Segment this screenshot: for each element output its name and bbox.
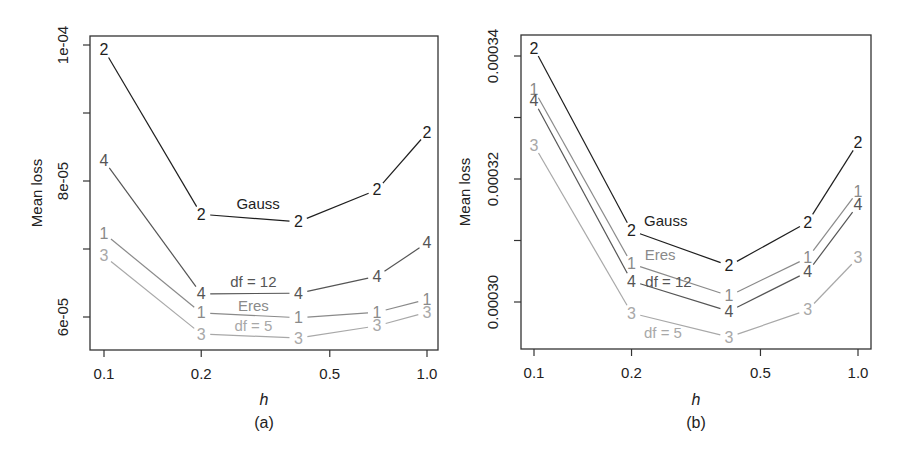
panel-a: 6e-058e-051e-040.10.20.51.0Mean lossh(a)… (28, 26, 438, 431)
data-point-marker: 2 (423, 124, 432, 141)
panel-caption: (a) (254, 414, 274, 431)
series-annotation: Gauss (236, 195, 279, 212)
x-axis-label: h (692, 391, 701, 408)
data-point-marker: 2 (197, 206, 206, 223)
series-df-5: 33333 (530, 137, 863, 346)
data-point-marker: 1 (197, 304, 206, 321)
figure: 6e-058e-051e-040.10.20.51.0Mean lossh(a)… (0, 0, 903, 458)
y-axis-label: Mean loss (28, 159, 45, 227)
y-tick-label: 6e-05 (54, 298, 71, 336)
series-segment (307, 278, 368, 291)
data-point-marker: 2 (725, 257, 734, 274)
series-segment (383, 139, 421, 183)
data-point-marker: 4 (423, 234, 432, 251)
data-point-marker: 3 (725, 329, 734, 346)
series-annotation: df = 12 (645, 273, 691, 290)
data-point-marker: 4 (803, 263, 812, 280)
data-point-marker: 4 (373, 268, 382, 285)
series-segment (384, 248, 419, 271)
y-tick-label: 0.00034 (484, 29, 501, 83)
series-segment (210, 293, 289, 294)
data-point-marker: 4 (627, 273, 636, 290)
data-point-marker: 2 (530, 40, 539, 57)
data-point-marker: 3 (373, 317, 382, 334)
series-segment (538, 109, 627, 273)
series-annotation: df = 12 (230, 273, 276, 290)
y-axis-label: Mean loss (456, 158, 473, 226)
x-tick-label: 0.2 (621, 364, 642, 381)
data-point-marker: 2 (373, 181, 382, 198)
y-tick-label: 0.00032 (484, 152, 501, 206)
series-segment (813, 212, 852, 265)
series-segment (737, 226, 800, 261)
x-tick-label: 1.0 (417, 365, 438, 382)
series-eres: 11111 (530, 81, 863, 304)
series-segment (210, 215, 289, 221)
series-segment (814, 264, 852, 303)
data-point-marker: 2 (803, 214, 812, 231)
x-tick-label: 0.5 (750, 364, 771, 381)
series-annotation: df = 5 (234, 317, 272, 334)
series-annotation: Eres (645, 246, 676, 263)
data-point-marker: 2 (854, 134, 863, 151)
series-segment (813, 198, 852, 250)
x-tick-label: 0.1 (94, 365, 115, 382)
series-segment (386, 302, 419, 310)
data-point-marker: 3 (197, 326, 206, 343)
x-tick-label: 1.0 (848, 364, 869, 381)
x-tick-label: 0.5 (319, 365, 340, 382)
series-segment (210, 334, 289, 337)
data-point-marker: 4 (100, 152, 109, 169)
data-point-marker: 3 (627, 305, 636, 322)
data-point-marker: 3 (100, 247, 109, 264)
data-point-marker: 3 (423, 304, 432, 321)
data-point-marker: 4 (725, 303, 734, 320)
data-point-marker: 3 (530, 137, 539, 154)
series-segment (737, 276, 800, 307)
y-tick-label: 1e-04 (54, 26, 71, 64)
series-segment (307, 313, 368, 317)
data-point-marker: 4 (294, 285, 303, 302)
data-point-marker: 4 (197, 285, 206, 302)
y-tick-label: 8e-05 (54, 162, 71, 200)
series-segment (307, 327, 368, 336)
series-gauss: 22222 (530, 40, 863, 275)
data-point-marker: 1 (100, 225, 109, 242)
series-segment (109, 168, 196, 287)
series-segment (538, 56, 627, 223)
series-annotation: Eres (238, 297, 269, 314)
series-segment (307, 193, 369, 218)
data-point-marker: 3 (294, 330, 303, 347)
series-annotation: df = 5 (644, 324, 682, 341)
plot-frame (521, 35, 871, 349)
data-point-marker: 4 (854, 196, 863, 213)
series-segment (111, 239, 194, 307)
data-point-marker: 3 (854, 249, 863, 266)
data-point-marker: 2 (100, 41, 109, 58)
data-point-marker: 1 (627, 255, 636, 272)
series-segment (738, 313, 800, 334)
series-annotation: Gauss (644, 212, 687, 229)
data-point-marker: 1 (294, 309, 303, 326)
y-tick-label: 0.00030 (484, 275, 501, 329)
x-tick-label: 0.2 (191, 365, 212, 382)
series-segment (386, 315, 419, 324)
series-segment (111, 261, 194, 328)
panel-b: 0.000300.000320.000340.10.20.51.0Mean lo… (456, 29, 871, 431)
figure-canvas: 6e-058e-051e-040.10.20.51.0Mean lossh(a)… (0, 0, 903, 458)
data-point-marker: 4 (530, 92, 539, 109)
series-segment (737, 262, 800, 292)
data-point-marker: 3 (803, 301, 812, 318)
x-axis-label: h (260, 391, 269, 408)
panel-caption: (b) (686, 414, 706, 431)
data-point-marker: 2 (294, 213, 303, 230)
data-point-marker: 2 (627, 222, 636, 239)
x-tick-label: 0.1 (524, 364, 545, 381)
